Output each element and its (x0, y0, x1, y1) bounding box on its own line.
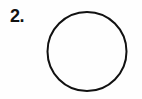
circle-shape-svg (0, 0, 142, 99)
worksheet-figure-canvas: 2. (0, 0, 142, 99)
circle-outline-icon (48, 12, 127, 91)
